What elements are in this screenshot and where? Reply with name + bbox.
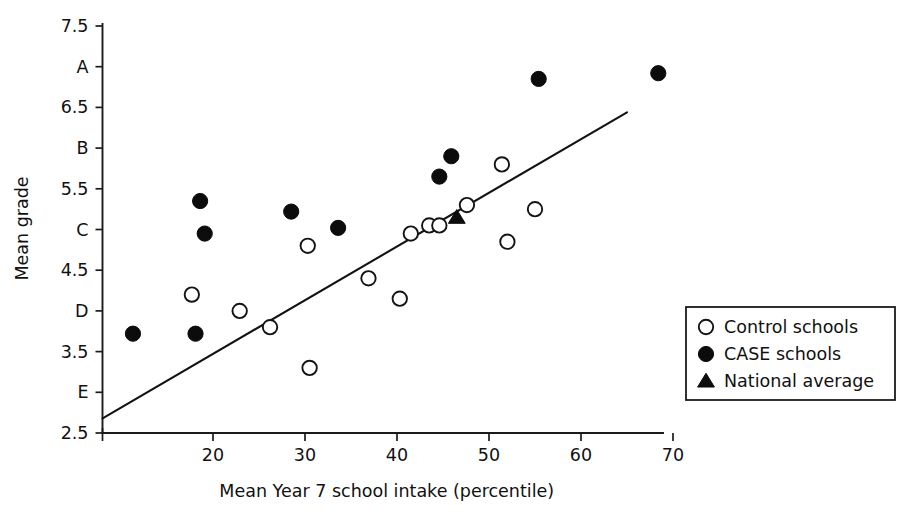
data-point-marker bbox=[125, 326, 140, 341]
data-point-marker bbox=[197, 226, 212, 241]
data-point-marker bbox=[528, 202, 542, 216]
x-axis-title: Mean Year 7 school intake (percentile) bbox=[219, 481, 554, 501]
trend-line bbox=[103, 112, 627, 418]
data-point-marker bbox=[185, 287, 199, 301]
scatter-chart-figure: 7.5A6.5B5.5C4.5D3.5E2.5203040506070Mean … bbox=[0, 0, 907, 521]
data-points bbox=[125, 66, 666, 375]
data-point-marker bbox=[302, 361, 316, 375]
axes bbox=[96, 24, 674, 441]
data-point-marker bbox=[188, 326, 203, 341]
data-point-marker bbox=[432, 218, 446, 232]
y-tick-label: C bbox=[76, 220, 88, 240]
legend-item-label: Control schools bbox=[724, 317, 858, 337]
data-point-marker bbox=[500, 235, 514, 249]
y-tick-label: B bbox=[76, 138, 88, 158]
x-tick-label: 70 bbox=[662, 445, 684, 465]
x-tick-label: 30 bbox=[294, 445, 316, 465]
y-tick-label: 5.5 bbox=[61, 179, 89, 199]
data-point-marker bbox=[444, 149, 459, 164]
data-point-marker bbox=[651, 66, 666, 81]
data-point-marker bbox=[432, 169, 447, 184]
legend-marker-icon bbox=[698, 346, 713, 361]
axis-labels: 7.5A6.5B5.5C4.5D3.5E2.5203040506070Mean … bbox=[12, 16, 684, 501]
data-point-marker bbox=[393, 291, 407, 305]
data-point-marker bbox=[460, 198, 474, 212]
data-point-marker bbox=[404, 226, 418, 240]
data-point-marker bbox=[331, 220, 346, 235]
y-tick-label: E bbox=[77, 382, 88, 402]
data-point-marker bbox=[232, 304, 246, 318]
legend-item-label: National average bbox=[724, 371, 874, 391]
data-point-marker bbox=[263, 320, 277, 334]
y-tick-label: D bbox=[75, 301, 88, 321]
chart-svg: 7.5A6.5B5.5C4.5D3.5E2.5203040506070Mean … bbox=[0, 0, 907, 521]
data-point-marker bbox=[495, 157, 509, 171]
y-axis-title: Mean grade bbox=[12, 176, 32, 280]
data-point-marker bbox=[284, 204, 299, 219]
legend-item-label: CASE schools bbox=[724, 344, 841, 364]
data-point-marker bbox=[361, 271, 375, 285]
x-tick-label: 40 bbox=[386, 445, 408, 465]
x-tick-label: 50 bbox=[478, 445, 500, 465]
regression-trend-line bbox=[103, 112, 627, 418]
chart-legend: Control schoolsCASE schoolsNational aver… bbox=[686, 307, 895, 400]
x-tick-label: 60 bbox=[570, 445, 592, 465]
data-point-marker bbox=[193, 193, 208, 208]
y-tick-label: 7.5 bbox=[61, 16, 89, 36]
y-tick-label: 6.5 bbox=[61, 97, 89, 117]
data-point-marker bbox=[531, 71, 546, 86]
y-tick-label: A bbox=[77, 57, 89, 77]
y-tick-label: 2.5 bbox=[61, 423, 89, 443]
data-point-marker bbox=[301, 239, 315, 253]
x-tick-label: 20 bbox=[202, 445, 224, 465]
y-tick-label: 3.5 bbox=[61, 342, 89, 362]
y-tick-label: 4.5 bbox=[61, 260, 89, 280]
legend-marker-icon bbox=[699, 320, 713, 334]
